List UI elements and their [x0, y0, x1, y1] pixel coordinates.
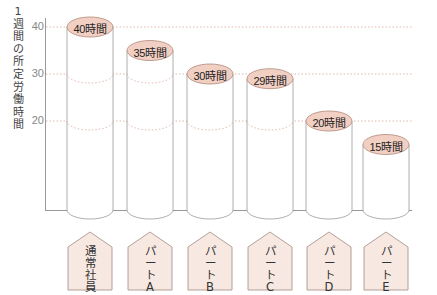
cylinder-bar [67, 17, 113, 219]
y-axis-title-char: 定 [12, 69, 24, 82]
y-axis-title: 1週間の所定労働時間 [12, 6, 24, 132]
value-label: 35時間 [127, 44, 173, 60]
y-tick-label: 20 [24, 114, 44, 126]
category-label: パートE [363, 245, 409, 293]
cylinder-bar [247, 69, 293, 219]
y-tick-label: 30 [24, 67, 44, 79]
category-label: 通常社員 [67, 245, 113, 293]
value-label: 15時間 [363, 138, 409, 154]
category-tag: パートB [187, 231, 233, 291]
category-tag: パートE [363, 231, 409, 291]
category-tag: パートC [247, 231, 293, 291]
category-label: パートB [187, 245, 233, 293]
value-label: 29時間 [247, 72, 293, 88]
y-axis-title-char: 間 [12, 119, 24, 132]
y-axis-title-char: 働 [12, 94, 24, 107]
category-label-char: C [247, 281, 293, 293]
category-label-char: B [187, 281, 233, 293]
category-label-char: 員 [67, 281, 113, 293]
y-axis-title-char: 間 [12, 31, 24, 44]
value-label: 30時間 [187, 67, 233, 83]
category-label: パートD [306, 245, 352, 293]
value-label: 20時間 [306, 114, 352, 130]
cylinder-bar [127, 41, 173, 220]
category-label-char: E [363, 281, 409, 293]
cylinder-bar [187, 64, 233, 219]
cylinder-bars [67, 17, 409, 219]
value-label: 40時間 [67, 20, 113, 36]
category-label: パートC [247, 245, 293, 293]
y-tick-label: 40 [24, 20, 44, 32]
category-tag: パートD [306, 231, 352, 291]
category-label-char: A [127, 281, 173, 293]
y-axis-title-char: 1 [12, 6, 24, 19]
category-tag: パートA [127, 231, 173, 291]
category-tag: 通常社員 [67, 231, 113, 291]
category-label: パートA [127, 245, 173, 293]
category-label-char: D [306, 281, 352, 293]
